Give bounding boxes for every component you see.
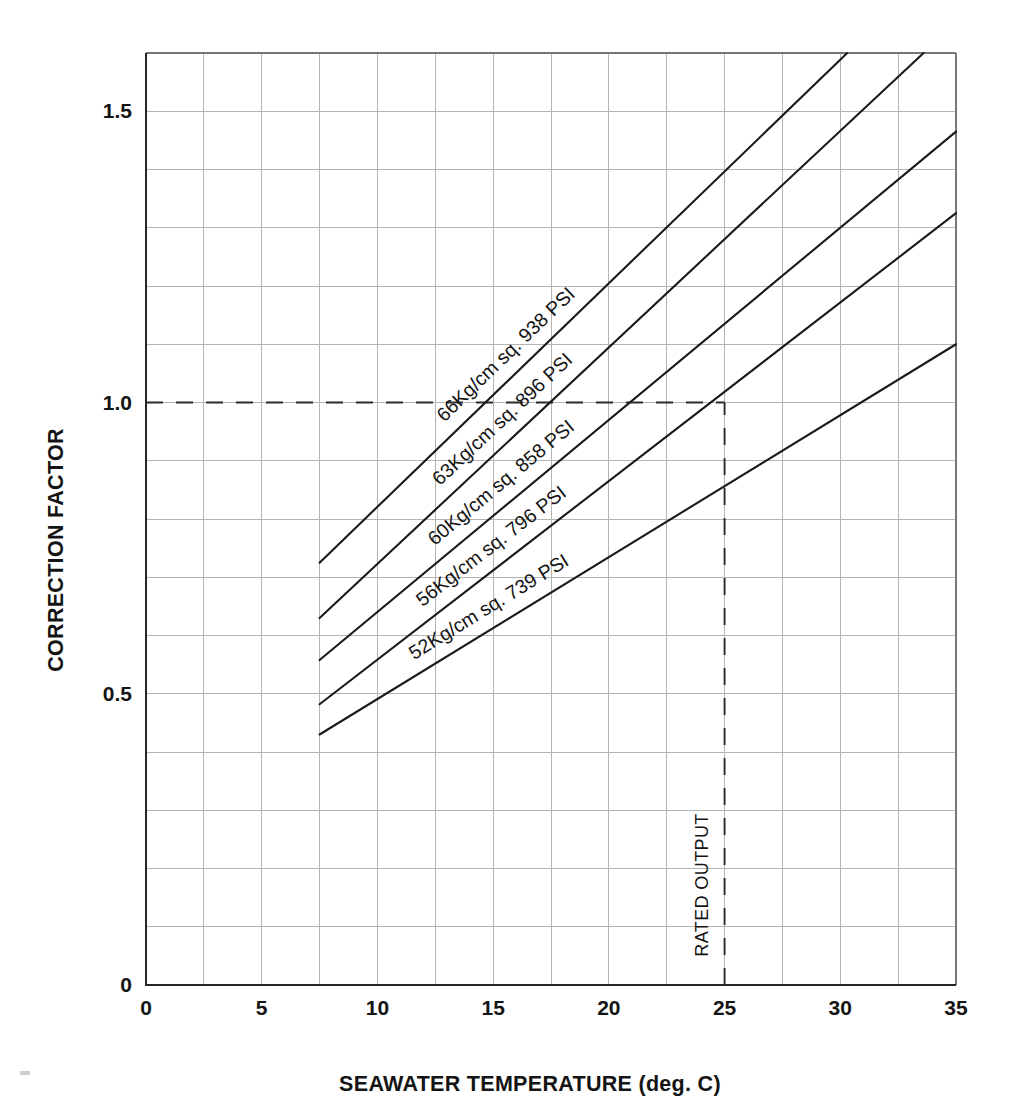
- x-tick-label-7: 35: [944, 996, 968, 1019]
- x-tick-label-3: 15: [481, 996, 505, 1019]
- x-tick-label-6: 30: [829, 996, 852, 1019]
- correction-factor-chart: 66Kg/cm sq. 938 PSI63Kg/cm sq. 896 PSI60…: [0, 0, 1019, 1118]
- y-tick-label-1: 0.5: [103, 682, 133, 705]
- x-tick-label-4: 20: [597, 996, 620, 1019]
- x-axis-title: SEAWATER TEMPERATURE (deg. C): [339, 1072, 721, 1096]
- y-tick-label-3: 1.5: [103, 99, 133, 122]
- y-tick-label-2: 1.0: [103, 391, 132, 414]
- x-tick-label-2: 10: [366, 996, 389, 1019]
- scan-speck: [20, 1071, 30, 1075]
- x-tick-label-5: 25: [713, 996, 737, 1019]
- y-tick-label-0: 0: [120, 973, 132, 996]
- x-tick-label-0: 0: [140, 996, 152, 1019]
- rated-output-label: RATED OUTPUT: [692, 813, 712, 956]
- chart-canvas: 66Kg/cm sq. 938 PSI63Kg/cm sq. 896 PSI60…: [0, 0, 1019, 1118]
- y-axis-title: CORRECTION FACTOR: [44, 428, 68, 672]
- x-tick-label-1: 5: [256, 996, 268, 1019]
